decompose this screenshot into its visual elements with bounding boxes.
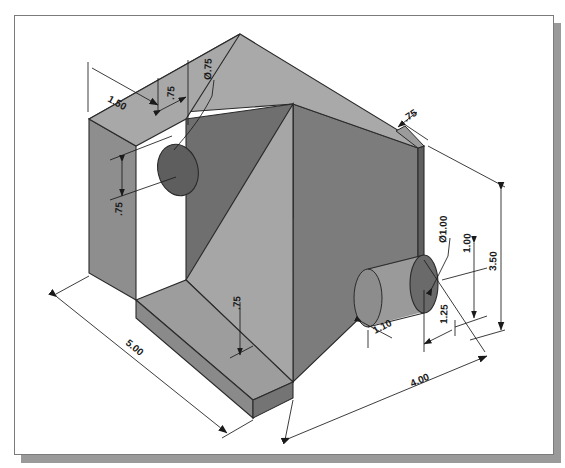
face-right-side <box>293 104 418 382</box>
dimline-1-25 <box>424 330 452 344</box>
dim-label-1-00: 1.00 <box>461 233 473 253</box>
ext-1-00-bot <box>455 316 487 327</box>
boss-root-ellipse <box>354 269 382 327</box>
ext-5-00-b <box>222 420 253 438</box>
dim-label-3-50: 3.50 <box>487 251 499 271</box>
ext-1-00-top <box>442 268 487 280</box>
face-right-end <box>418 146 424 262</box>
dimline-4-00 <box>290 356 487 438</box>
dim-label-075-b: .75 <box>113 201 124 216</box>
dim-label-dia-1-00: Ø1.00 <box>437 215 449 243</box>
dim-label-075-a: .75 <box>165 85 176 100</box>
dim-label-4-00: 4.00 <box>408 371 431 389</box>
ext-3-50-top <box>428 146 505 187</box>
dim-label-075-c: .75 <box>231 295 242 310</box>
ext-4-00-a <box>285 400 293 440</box>
ext-5-00-a <box>56 276 89 294</box>
dim-label-dia-075: Ø.75 <box>202 58 214 80</box>
solid-model <box>89 34 438 418</box>
dim-label-075-d: .75 <box>401 107 419 124</box>
drawing-page: 1.50 .75 Ø.75 .75 .75 .75 5.00 4.00 3.50… <box>0 0 565 468</box>
dim-label-5-00: 5.00 <box>124 337 146 358</box>
dim-label-1-25: 1.25 <box>438 304 450 324</box>
ext-3-50-bot <box>470 330 505 340</box>
isometric-drawing-canvas: 1.50 .75 Ø.75 .75 .75 .75 5.00 4.00 3.50… <box>0 0 565 468</box>
